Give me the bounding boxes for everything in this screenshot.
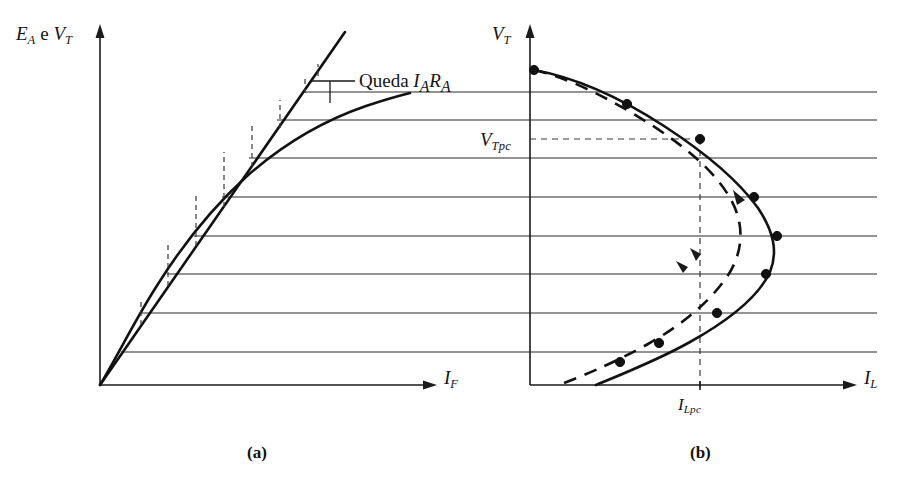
panel-a-x-axis-label-text: IF bbox=[444, 367, 458, 388]
dashed-curve-arrowhead bbox=[690, 248, 701, 261]
terminal-characteristic-solid bbox=[534, 70, 774, 385]
data-point bbox=[749, 192, 758, 201]
field-resistance-line bbox=[100, 32, 345, 385]
panel-b-x-axis-label-text: IL bbox=[864, 367, 878, 388]
panel-b-x-axis-arrowhead bbox=[843, 381, 857, 390]
data-point bbox=[529, 65, 538, 74]
figure-container: EA e VT IF Queda IARA VT IL VTpc ILpc (a… bbox=[0, 0, 905, 490]
armature-drop-annotation-text: Queda IARA bbox=[359, 70, 451, 91]
terminal-characteristic-dashed bbox=[534, 70, 741, 386]
data-point bbox=[712, 308, 721, 317]
panel-a-caption-text: (a) bbox=[247, 443, 267, 462]
data-point bbox=[695, 134, 704, 143]
panel-b-caption: (b) bbox=[690, 443, 711, 463]
data-point bbox=[622, 99, 631, 108]
panel-a-x-axis-arrowhead bbox=[423, 381, 437, 390]
ilpc-label: ILpc bbox=[678, 396, 701, 413]
panel-b-y-axis-arrowhead bbox=[526, 24, 535, 38]
data-point bbox=[654, 338, 663, 347]
magnetization-curve bbox=[100, 93, 410, 385]
panel-b-guides bbox=[530, 139, 700, 392]
panel-a-y-axis-label-text: EA e VT bbox=[16, 23, 72, 44]
dashed-curve-arrowhead bbox=[676, 261, 688, 273]
panel-a-y-axis-arrowhead bbox=[96, 24, 105, 38]
vtpc-label-text: VTpc bbox=[480, 129, 511, 150]
vtpc-label: VTpc bbox=[480, 130, 511, 149]
armature-drop-annotation: Queda IARA bbox=[359, 71, 451, 95]
data-point bbox=[615, 357, 624, 366]
panel-a-x-axis-label: IF bbox=[444, 368, 458, 387]
data-point bbox=[761, 269, 770, 278]
panel-b-y-axis-label: VT bbox=[492, 24, 511, 43]
panel-a-caption: (a) bbox=[247, 443, 267, 463]
panel-b-axes bbox=[526, 24, 858, 390]
figure-drawing-canvas bbox=[0, 0, 905, 490]
panel-b-x-axis-label: IL bbox=[864, 368, 878, 387]
data-point bbox=[772, 231, 781, 240]
panel-b-y-axis-label-text: VT bbox=[492, 23, 511, 44]
panel-a-y-axis-label: EA e VT bbox=[16, 24, 72, 43]
ilpc-label-text: ILpc bbox=[678, 395, 701, 414]
panel-b-curves bbox=[529, 65, 781, 386]
panel-b-caption-text: (b) bbox=[690, 443, 711, 462]
